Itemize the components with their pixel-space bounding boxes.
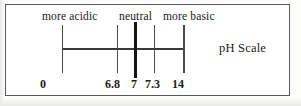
axis-region-label-neutral: neutral (119, 11, 152, 23)
scan-edge-shading-bottom (0, 98, 301, 106)
axis-region-label-more-acidic: more acidic (42, 11, 98, 23)
axis-region-label-more-basic: more basic (163, 11, 215, 23)
axis-tick-6-8 (117, 25, 119, 73)
axis-tick-label-14: 14 (172, 78, 184, 90)
axis-tick-0 (62, 25, 64, 73)
axis-tick-label-7-3: 7.3 (145, 78, 160, 90)
axis-tick-14 (183, 25, 185, 73)
ph-axis-line (62, 48, 185, 50)
figure-title: pH Scale (219, 42, 266, 55)
axis-tick-label-7: 7 (131, 78, 137, 90)
axis-tick-label-6-8: 6.8 (105, 78, 120, 90)
ph-scale-figure: more acidic neutral more basic pH Scale … (0, 0, 301, 106)
axis-tick-label-0: 0 (40, 78, 46, 90)
axis-tick-7-3 (154, 25, 156, 73)
axis-tick-7-neutral (134, 22, 137, 78)
